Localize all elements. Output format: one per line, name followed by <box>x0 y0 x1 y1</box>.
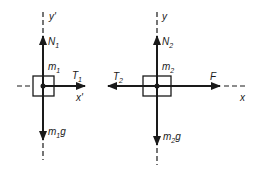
y-prime-axis-label: y' <box>48 11 57 22</box>
n2-label: N2 <box>162 36 173 49</box>
mass-2-center-dot <box>155 84 160 89</box>
x-axis-label: x <box>239 92 246 103</box>
n1-label: N1 <box>48 36 59 49</box>
t2-label: T2 <box>113 71 123 84</box>
right-diagram-mass-2: y N2 m2 T2 F x m2g <box>108 11 248 165</box>
mass-1-center-dot <box>41 84 46 89</box>
m1g-label: m1g <box>48 126 66 139</box>
m2-label: m2 <box>162 61 174 74</box>
x-prime-axis-label: x' <box>75 92 84 103</box>
left-diagram-mass-1: y' N1 m1 T1 x' m1g <box>17 11 85 160</box>
y-axis-label: y <box>161 11 168 22</box>
f-label: F <box>210 71 217 82</box>
m2g-label: m2g <box>163 131 181 144</box>
m1-label: m1 <box>48 61 60 74</box>
t1-label: T1 <box>72 70 82 83</box>
free-body-diagrams: y' N1 m1 T1 x' m1g y N2 m2 T2 F x m2g <box>0 0 254 174</box>
